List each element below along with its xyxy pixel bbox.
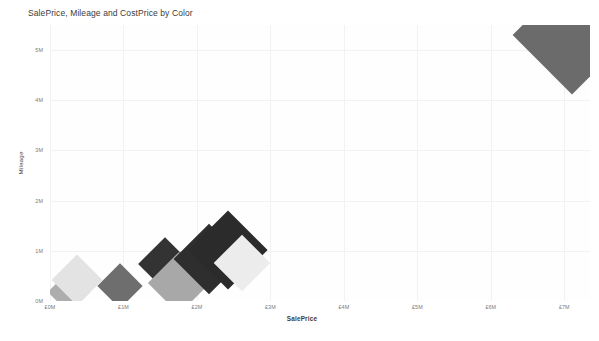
x-tick-label: £5M (412, 304, 423, 310)
x-tick-label: £0M (45, 304, 56, 310)
x-tick-label: £3M (265, 304, 276, 310)
scatter-mark[interactable] (512, 25, 590, 94)
y-axis-title: Mileage (17, 151, 24, 174)
chart-title: SalePrice, Mileage and CostPrice by Colo… (28, 8, 193, 19)
x-tick-label: £4M (338, 304, 349, 310)
x-axis-title: SalePrice (287, 315, 318, 322)
scatter-mark[interactable] (97, 263, 142, 301)
y-tick-label: 4M (35, 97, 43, 103)
scatter-chart: SalePrice, Mileage and CostPrice by Colo… (0, 0, 599, 341)
y-tick-label: 3M (35, 147, 43, 153)
y-tick-label: 5M (35, 47, 43, 53)
y-tick-label: 1M (35, 248, 43, 254)
x-axis: SalePrice £0M£1M£2M£3M£4M£5M£6M£7M (50, 301, 590, 341)
x-tick-label: £1M (118, 304, 129, 310)
y-tick-label: 0M (35, 298, 43, 304)
y-tick-label: 2M (35, 198, 43, 204)
x-tick-label: £6M (485, 304, 496, 310)
plot-area (50, 25, 590, 301)
x-tick-label: £7M (559, 304, 570, 310)
y-axis: Mileage 0M1M2M3M4M5M (0, 25, 50, 301)
x-tick-label: £2M (192, 304, 203, 310)
data-marks (50, 25, 590, 301)
